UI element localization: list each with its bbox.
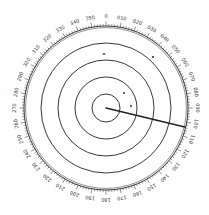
scale-tick [167,52,168,53]
bearing-label: 180 [101,197,111,203]
scale-tick [163,167,164,168]
electronic-bearing-line[interactable] [106,108,185,127]
scale-tick [172,156,174,157]
scale-tick [169,52,172,55]
bearing-label: 110 [188,134,197,145]
bearing-label: 050 [171,44,182,55]
scale-tick [161,169,162,170]
scale-tick [59,176,60,178]
scale-tick [48,167,49,168]
bearing-label: 240 [22,148,32,159]
scale-tick [31,65,35,67]
scale-tick [32,69,34,70]
bearing-label: 040 [159,32,170,43]
bearing-label: 150 [146,182,157,192]
scale-tick [165,50,166,51]
scale-tick [156,42,157,44]
radar-display[interactable]: 0010020030040050060070080090100110120130… [0,0,209,215]
bearing-label: 290 [15,71,24,82]
bearing-label: 340 [69,17,80,26]
scale-tick [31,149,35,151]
scale-tick [50,171,53,174]
bearing-label: 070 [188,71,197,82]
scale-tick [152,38,153,40]
bearing-label: 060 [180,57,190,68]
bearing-label: 350 [85,14,95,22]
scale-tick [40,158,42,159]
scale-tick [144,34,145,36]
scale-tick [159,42,162,45]
bearing-label: 250 [15,134,24,145]
bearing-label: 140 [159,173,170,184]
scale-tick [75,30,76,32]
scale-tick [154,174,155,176]
bearing-label: 120 [180,148,190,159]
scale-tick [25,136,29,138]
bearing-label: 0 [104,13,107,19]
scale-tick [63,33,65,37]
bearing-label: 220 [42,173,53,184]
scale-tick [149,37,150,39]
scale-tick [183,136,187,138]
scale-tick [178,69,180,70]
bearing-label: 300 [22,57,32,68]
radar-target[interactable] [103,53,106,55]
scale-tick [50,46,51,47]
scale-tick [147,179,149,183]
scale-tick [165,165,166,166]
scale-tick [28,77,30,78]
scale-tick [120,189,121,193]
scale-tick [120,23,121,27]
scale-tick [177,149,181,151]
scale-tick [174,154,176,155]
scale-tick [61,37,62,39]
scale-tick [183,78,187,80]
radar-targets [103,53,155,107]
scale-tick [91,23,92,27]
scale-tick [174,61,176,62]
scale-tick [161,46,162,47]
bearing-label: 030 [146,24,157,34]
scale-tick [91,189,92,193]
scale-tick [35,151,37,152]
scale-tick [163,48,164,49]
scale-tick [172,59,174,60]
scale-tick [67,180,68,182]
scale-tick [46,165,47,166]
scale-tick [38,156,40,157]
scale-tick [137,30,138,32]
scale-tick [159,171,162,174]
scale-tick [144,180,145,182]
scale-tick [21,93,25,94]
scale-tick [25,78,29,80]
scale-tick [169,161,172,164]
bearing-label: 160 [132,190,143,199]
scale-tick [28,139,30,140]
scale-tick [149,178,150,180]
scale-tick [50,42,53,45]
scale-tick [35,63,37,64]
scale-tick [76,27,78,31]
scale-tick [44,52,45,53]
scale-tick [38,59,40,60]
bearing-label: 200 [69,190,80,199]
scale-tick [32,146,34,147]
scale-tick [156,173,157,175]
bearing-label: 280 [12,87,20,97]
scale-tick [40,161,43,164]
scale-tick [167,163,168,164]
radar-target[interactable] [130,105,132,108]
scale-tick [36,61,38,62]
scale-tick [176,151,178,152]
scale-tick [134,27,136,31]
scale-tick [61,178,62,180]
bearing-label: 320 [42,32,53,43]
radar-target[interactable] [152,56,154,58]
radar-target[interactable] [123,92,125,94]
scale-tick [36,154,38,155]
scale-tick [134,185,136,189]
bearing-label: 330 [55,24,66,34]
scale-tick [50,169,51,170]
scale-tick [67,34,68,36]
scale-tick [40,56,42,57]
